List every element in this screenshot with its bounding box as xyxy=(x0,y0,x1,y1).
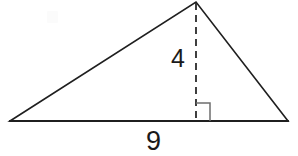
base-label: 9 xyxy=(146,128,161,155)
height-label: 4 xyxy=(171,46,185,71)
triangle-figure: 4 9 xyxy=(0,0,298,156)
triangle-outline xyxy=(10,2,288,121)
right-angle-marker-icon xyxy=(196,103,210,121)
